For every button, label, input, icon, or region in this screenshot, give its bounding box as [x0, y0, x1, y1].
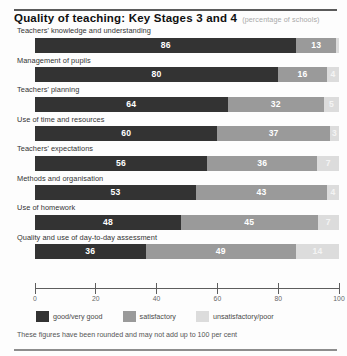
stacked-bar: 53434	[35, 185, 339, 200]
bottom-divider	[14, 349, 337, 351]
bar-group: Use of homework48457	[14, 203, 339, 230]
bar-segment-good: 48	[35, 215, 181, 230]
bar-segment-good: 60	[35, 126, 217, 141]
bar-segment-value: 60	[121, 129, 131, 138]
chart-header: Quality of teaching: Key Stages 3 and 4 …	[14, 12, 339, 24]
stacked-bar: 64325	[35, 97, 339, 112]
chart-title: Quality of teaching: Key Stages 3 and 4	[14, 12, 237, 24]
axis-tick-label: 0	[33, 295, 37, 302]
x-axis: 020406080100	[35, 283, 339, 305]
legend-label: unsatisfactory/poor	[213, 312, 274, 321]
legend-item[interactable]: satisfactory	[123, 311, 176, 322]
bar-group: Teachers' knowledge and understanding861…	[14, 26, 339, 53]
bar-segment-satisfactory: 32	[228, 97, 324, 112]
bar-segment-unsatisfactory: 3	[330, 126, 339, 141]
bar-segment-value: 14	[312, 247, 322, 256]
bar-segment-satisfactory: 49	[146, 244, 296, 259]
bar-segment-satisfactory: 16	[278, 67, 327, 82]
bar-segment-good: 53	[35, 185, 196, 200]
axis-tick	[156, 283, 157, 294]
bar-category-label: Teachers' planning	[17, 85, 339, 94]
axis-tick-label: 40	[153, 295, 161, 302]
bar-segment-unsatisfactory	[336, 38, 339, 53]
stacked-bar: 56367	[35, 156, 339, 171]
bar-segment-unsatisfactory: 14	[296, 244, 339, 259]
bar-category-label: Use of homework	[17, 203, 339, 212]
bar-category-label: Teachers' knowledge and understanding	[17, 26, 339, 35]
chart-subtitle: (percentage of schools)	[242, 15, 319, 24]
bar-segment-good: 64	[35, 97, 228, 112]
bar-segment-value: 49	[216, 247, 226, 256]
bar-group: Methods and organisation53434	[14, 174, 339, 201]
bar-segment-value: 7	[326, 159, 331, 168]
chart-legend: good/very goodsatisfactoryunsatisfactory…	[36, 311, 288, 322]
bar-segment-value: 48	[103, 218, 113, 227]
chart-figure: Quality of teaching: Key Stages 3 and 4 …	[0, 0, 347, 356]
bar-segment-value: 3	[332, 129, 337, 138]
bar-segment-satisfactory: 36	[207, 156, 318, 171]
bar-segment-value: 5	[329, 100, 334, 109]
bar-segment-value: 53	[111, 188, 121, 197]
bar-group: Use of time and resources60373	[14, 115, 339, 142]
axis-tick-label: 20	[92, 295, 100, 302]
axis-tick	[217, 283, 218, 294]
legend-item[interactable]: unsatisfactory/poor	[196, 311, 274, 322]
stacked-bar: 48457	[35, 215, 339, 230]
bar-category-label: Quality and use of day-to-day assessment	[17, 233, 339, 242]
legend-label: satisfactory	[140, 312, 176, 321]
legend-swatch-satisfactory	[123, 311, 136, 322]
legend-swatch-unsatisfactory	[196, 311, 209, 322]
bar-segment-value: 16	[298, 70, 308, 79]
axis-line	[35, 288, 339, 289]
chart-footnote: These figures have been rounded and may …	[17, 331, 237, 339]
axis-tick-label: 80	[274, 295, 282, 302]
bar-segment-satisfactory: 45	[181, 215, 318, 230]
bar-category-label: Use of time and resources	[17, 115, 339, 124]
bar-segment-value: 56	[116, 159, 126, 168]
bar-segment-good: 56	[35, 156, 207, 171]
bar-segment-value: 86	[161, 41, 171, 50]
bar-segment-satisfactory: 13	[296, 38, 336, 53]
bar-segment-unsatisfactory: 7	[318, 215, 339, 230]
bar-segment-value: 45	[244, 218, 254, 227]
bar-segment-unsatisfactory: 7	[317, 156, 338, 171]
bar-segment-satisfactory: 43	[196, 185, 327, 200]
stacked-bar: 8613	[35, 38, 339, 53]
bar-segment-value: 43	[256, 188, 266, 197]
axis-tick	[35, 283, 36, 294]
legend-label: good/very good	[53, 312, 103, 321]
stacked-bar: 80164	[35, 67, 339, 82]
bar-segment-unsatisfactory: 4	[327, 67, 339, 82]
legend-swatch-good	[36, 311, 49, 322]
bar-group: Teachers' planning64325	[14, 85, 339, 112]
bar-segment-value: 36	[257, 159, 267, 168]
stacked-bar: 60373	[35, 126, 339, 141]
bar-segment-value: 4	[330, 188, 335, 197]
legend-item[interactable]: good/very good	[36, 311, 103, 322]
bar-segment-value: 7	[326, 218, 331, 227]
bar-segment-good: 36	[35, 244, 146, 259]
bar-category-label: Teachers' expectations	[17, 144, 339, 153]
bar-segment-value: 36	[85, 247, 95, 256]
bar-segment-unsatisfactory: 5	[324, 97, 339, 112]
bar-group: Quality and use of day-to-day assessment…	[14, 233, 339, 260]
bar-group: Management of pupils80164	[14, 56, 339, 83]
axis-tick-label: 60	[214, 295, 222, 302]
bar-segment-value: 32	[271, 100, 281, 109]
bar-segment-satisfactory: 37	[217, 126, 329, 141]
axis-tick-label: 100	[333, 295, 344, 302]
bar-segment-good: 80	[35, 67, 278, 82]
bar-segment-value: 4	[330, 70, 335, 79]
bar-segment-value: 13	[311, 41, 321, 50]
axis-tick	[278, 283, 279, 294]
bar-segment-value: 64	[126, 100, 136, 109]
bar-segment-value: 80	[152, 70, 162, 79]
axis-tick	[339, 283, 340, 294]
stacked-bar: 364914	[35, 244, 339, 259]
bar-category-label: Methods and organisation	[17, 174, 339, 183]
bar-segment-good: 86	[35, 38, 296, 53]
top-divider	[14, 9, 337, 11]
bar-group: Teachers' expectations56367	[14, 144, 339, 171]
bar-segment-unsatisfactory: 4	[327, 185, 339, 200]
axis-tick	[95, 283, 96, 294]
